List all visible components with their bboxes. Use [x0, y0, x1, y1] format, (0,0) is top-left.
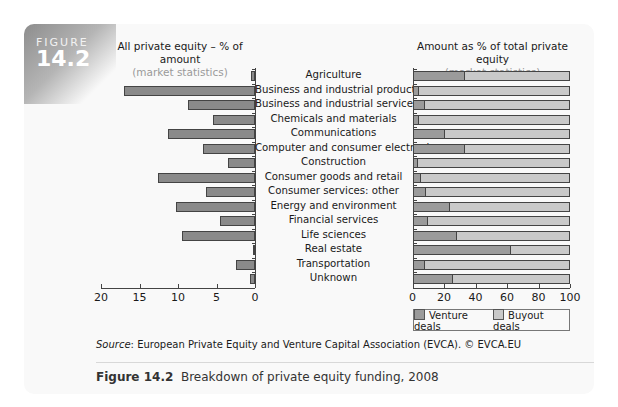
right-stacked-bar — [413, 86, 571, 96]
right-x-tick — [413, 284, 414, 288]
left-x-tick-label: 20 — [86, 291, 116, 304]
category-label: Unknown — [255, 271, 412, 285]
right-y-tick — [413, 98, 417, 99]
left-bar — [203, 144, 255, 154]
venture-segment — [414, 87, 420, 95]
left-bar — [168, 129, 255, 139]
right-y-tick — [413, 258, 417, 259]
right-y-tick — [413, 171, 417, 172]
right-stacked-bar — [413, 115, 571, 125]
right-stacked-bar — [413, 216, 571, 226]
venture-segment — [414, 174, 422, 182]
category-label: Real estate — [255, 242, 412, 256]
venture-segment — [414, 261, 425, 269]
right-y-tick — [413, 127, 417, 128]
source-note: Source: European Private Equity and Vent… — [96, 339, 521, 350]
legend: Venture deals Buyout deals — [413, 309, 570, 331]
right-x-tick — [539, 284, 540, 288]
left-x-tick-label: 0 — [240, 291, 270, 304]
left-x-axis — [101, 288, 255, 289]
right-stacked-bar — [413, 129, 571, 139]
venture-segment — [414, 116, 420, 124]
venture-segment — [414, 101, 425, 109]
category-label: Communications — [255, 126, 412, 140]
left-chart-title-text: All private equity – % of amount — [100, 40, 260, 66]
divider — [96, 362, 594, 363]
right-x-tick-label: 100 — [555, 291, 585, 304]
category-label: Business and industrial products — [255, 83, 412, 97]
right-x-tick-label: 80 — [524, 291, 554, 304]
caption-text: Breakdown of private equity funding, 200… — [181, 370, 439, 384]
left-x-tick — [101, 284, 102, 288]
left-bar — [176, 202, 255, 212]
right-stacked-bar — [413, 100, 571, 110]
right-x-tick-label: 40 — [461, 291, 491, 304]
right-y-tick — [413, 84, 417, 85]
category-label: Life sciences — [255, 228, 412, 242]
legend-item-venture: Venture deals — [414, 309, 493, 332]
right-y-tick — [413, 113, 417, 114]
category-label: Construction — [255, 155, 412, 169]
category-label: Computer and consumer electronics — [255, 141, 412, 155]
right-stacked-bar — [413, 245, 571, 255]
left-bar — [188, 100, 255, 110]
left-bar — [158, 173, 255, 183]
buyout-swatch-icon — [493, 309, 504, 320]
left-x-tick — [140, 284, 141, 288]
venture-swatch-icon — [414, 309, 425, 320]
right-stacked-bar — [413, 274, 571, 284]
right-y-tick — [413, 243, 417, 244]
left-x-tick — [217, 284, 218, 288]
left-bar — [236, 260, 255, 270]
caption-label: Figure 14.2 — [96, 370, 173, 384]
source-label: Source — [96, 339, 131, 350]
right-x-tick — [476, 284, 477, 288]
figure-caption: Figure 14.2 Breakdown of private equity … — [96, 370, 439, 384]
right-y-tick — [413, 142, 417, 143]
right-x-tick — [444, 284, 445, 288]
left-x-tick — [255, 284, 256, 288]
left-bar — [182, 231, 255, 241]
right-y-tick — [413, 229, 417, 230]
venture-segment — [414, 275, 453, 283]
venture-segment — [414, 203, 450, 211]
left-bar — [124, 86, 255, 96]
right-stacked-bar — [413, 202, 571, 212]
right-x-tick — [570, 284, 571, 288]
venture-segment — [414, 232, 457, 240]
right-y-tick — [413, 272, 417, 273]
right-x-tick-label: 60 — [492, 291, 522, 304]
category-label: Business and industrial services — [255, 97, 412, 111]
category-label: Consumer goods and retail — [255, 170, 412, 184]
right-x-tick-label: 0 — [398, 291, 428, 304]
right-stacked-bar — [413, 187, 571, 197]
right-y-tick — [413, 69, 417, 70]
category-label: Transportation — [255, 257, 412, 271]
source-text: : European Private Equity and Venture Ca… — [131, 339, 522, 350]
category-label: Chemicals and materials — [255, 112, 412, 126]
right-stacked-bar — [413, 231, 571, 241]
legend-item-buyout: Buyout deals — [493, 309, 569, 332]
venture-segment — [414, 130, 446, 138]
left-bar — [213, 115, 255, 125]
right-chart-title-text: Amount as % of total private equity — [405, 40, 580, 66]
venture-segment — [414, 246, 512, 254]
left-chart-title: All private equity – % of amount (market… — [100, 40, 260, 79]
right-stacked-bar — [413, 158, 571, 168]
category-label: Consumer services: other — [255, 184, 412, 198]
right-y-tick — [413, 214, 417, 215]
left-x-tick-label: 10 — [163, 291, 193, 304]
right-y-tick — [413, 200, 417, 201]
left-bar — [220, 216, 255, 226]
left-x-tick — [178, 284, 179, 288]
right-stacked-bar — [413, 144, 571, 154]
right-x-tick-label: 20 — [429, 291, 459, 304]
right-stacked-bar — [413, 260, 571, 270]
category-label: Energy and environment — [255, 199, 412, 213]
left-bar — [228, 158, 255, 168]
left-bar — [206, 187, 255, 197]
right-y-tick — [413, 185, 417, 186]
venture-segment — [414, 72, 466, 80]
venture-segment — [414, 217, 428, 225]
venture-segment — [414, 159, 419, 167]
